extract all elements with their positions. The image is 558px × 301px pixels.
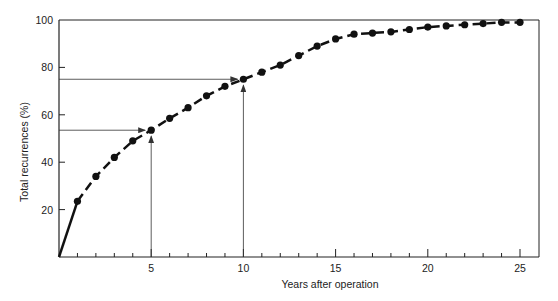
arrow-guides	[59, 79, 243, 257]
data-point	[516, 19, 523, 26]
x-tick-label: 25	[514, 262, 526, 274]
data-point	[387, 28, 394, 35]
data-point	[221, 83, 228, 90]
data-point	[498, 19, 505, 26]
data-point	[406, 26, 413, 33]
y-tick-label: 100	[35, 14, 53, 26]
x-tick-label: 15	[330, 262, 342, 274]
y-tick-label: 40	[41, 156, 53, 168]
data-point	[461, 21, 468, 28]
x-axis: 510152025	[77, 249, 526, 274]
x-tick-label: 5	[148, 262, 154, 274]
data-point	[369, 29, 376, 36]
y-tick-label: 60	[41, 109, 53, 121]
data-point	[111, 154, 118, 161]
data-point	[92, 173, 99, 180]
data-point	[258, 69, 265, 76]
y-tick-label: 20	[41, 204, 53, 216]
x-tick-label: 10	[238, 262, 250, 274]
data-point	[148, 127, 155, 134]
data-point	[295, 52, 302, 59]
data-point	[350, 31, 357, 38]
data-point	[166, 115, 173, 122]
series-line	[77, 22, 520, 201]
data-point	[424, 24, 431, 31]
data-point	[480, 20, 487, 27]
data-point	[203, 92, 210, 99]
data-point	[277, 61, 284, 68]
data-point	[129, 137, 136, 144]
x-axis-title: Years after operation	[281, 278, 378, 290]
data-point	[332, 35, 339, 42]
x-tick-label: 20	[422, 262, 434, 274]
y-axis-title: Total recurrences (%)	[18, 102, 30, 202]
recurrence-chart: 20406080100 510152025 Years after operat…	[0, 0, 558, 301]
data-point	[74, 198, 81, 205]
y-axis: 20406080100	[35, 14, 65, 216]
y-tick-label: 80	[41, 61, 53, 73]
data-point	[314, 42, 321, 49]
data-series	[59, 19, 524, 257]
data-point	[443, 22, 450, 29]
data-point	[184, 104, 191, 111]
data-point	[240, 76, 247, 83]
